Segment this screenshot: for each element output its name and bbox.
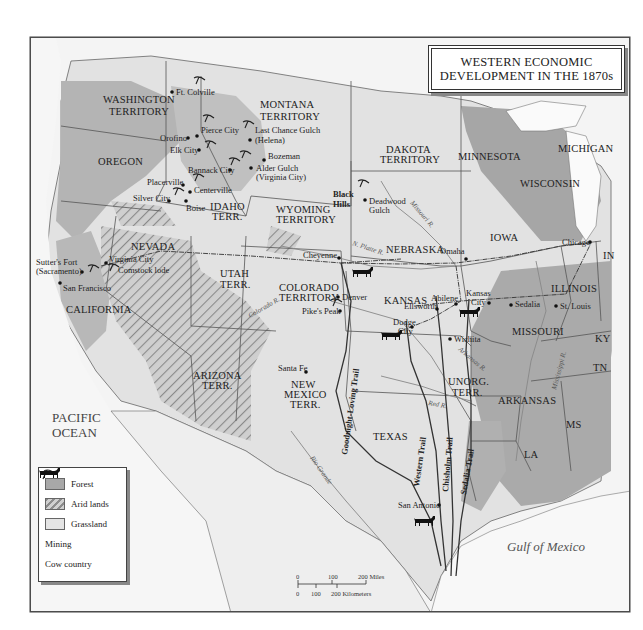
legend-item-grassland: Grassland <box>45 514 120 534</box>
scale-km-0: 0 <box>296 590 299 597</box>
legend-label: Cow country <box>45 559 92 569</box>
title-line-1: WESTERN ECONOMIC <box>460 55 592 69</box>
title-line-2: DEVELOPMENT IN THE 1870s <box>440 69 613 83</box>
legend-item-cow-country: Cow country <box>45 554 120 574</box>
hatched-swatch-icon <box>45 498 65 510</box>
scale-miles-0: 0 <box>296 575 299 580</box>
scale-miles-200: 200 Miles <box>358 575 385 580</box>
legend-item-mining: Mining <box>45 534 120 554</box>
scale-bar-graphic: 0 100 200 Miles 0 100 200 Kilometers <box>296 575 406 607</box>
map-title-box: WESTERN ECONOMIC DEVELOPMENT IN THE 1870… <box>428 45 625 93</box>
legend-label: Arid lands <box>71 499 109 509</box>
legend-label: Mining <box>45 539 72 549</box>
map-legend: Forest Arid lands Grassland Mining Cow c… <box>38 467 127 582</box>
cow-icon <box>39 468 61 481</box>
legend-label: Grassland <box>71 519 107 529</box>
scale-km-100: 100 <box>311 590 321 597</box>
legend-label: Forest <box>71 479 94 489</box>
scale-km-200: 200 Kilometers <box>331 590 372 597</box>
legend-item-arid-lands: Arid lands <box>45 494 120 514</box>
scale-miles-100: 100 <box>328 575 338 580</box>
grassland-swatch-icon <box>45 518 65 530</box>
